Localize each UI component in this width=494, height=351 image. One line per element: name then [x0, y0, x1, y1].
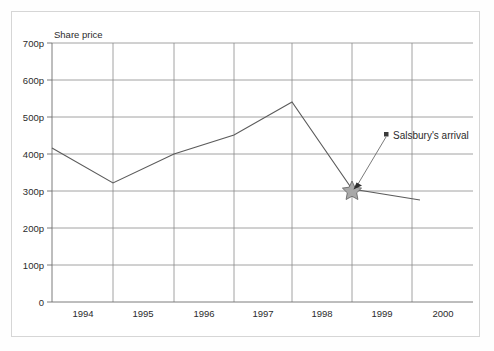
chart-figure: Share price 700p 600p 500p 400p 300p 200…	[0, 0, 494, 351]
x-tick-label-2000: 2000	[432, 308, 453, 319]
y-tick-label-300p: 300p	[23, 186, 44, 197]
y-tick-label-200p: 200p	[23, 223, 44, 234]
annotation-label-salsburys-arrival: Salsbury's arrival	[393, 130, 469, 141]
y-tick-marks	[47, 43, 52, 302]
y-axis-title: Share price	[54, 29, 103, 40]
share-price-line-chart: Share price 700p 600p 500p 400p 300p 200…	[0, 0, 494, 351]
x-tick-label-1995: 1995	[132, 308, 153, 319]
y-tick-label-700p: 700p	[23, 38, 44, 49]
y-tick-label-0: 0	[39, 297, 44, 308]
annotation-square-marker-icon	[384, 132, 389, 137]
y-tick-label-100p: 100p	[23, 260, 44, 271]
x-tick-label-1997: 1997	[252, 308, 273, 319]
y-tick-label-500p: 500p	[23, 112, 44, 123]
x-tick-label-1998: 1998	[311, 308, 332, 319]
y-tick-label-600p: 600p	[23, 75, 44, 86]
x-tick-label-1999: 1999	[371, 308, 392, 319]
x-tick-label-1996: 1996	[193, 308, 214, 319]
vertical-gridlines	[113, 43, 412, 302]
horizontal-gridlines	[52, 43, 473, 265]
annotation-leader-line	[358, 137, 386, 184]
y-tick-label-400p: 400p	[23, 149, 44, 160]
x-tick-label-1994: 1994	[72, 308, 93, 319]
